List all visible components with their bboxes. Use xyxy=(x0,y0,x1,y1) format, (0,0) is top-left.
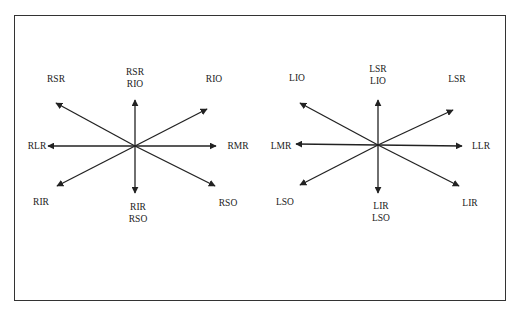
left-eye-label-down-right: LIR xyxy=(462,197,477,209)
right-eye-label-left: RLR xyxy=(28,140,46,152)
right-eye-label-up-left: RSR xyxy=(47,73,65,85)
muscle-abbreviation: LIR xyxy=(372,200,390,212)
muscle-abbreviation: RSO xyxy=(219,197,237,209)
left-eye-label-left: LMR xyxy=(271,140,292,152)
right-eye-label-up-right: RIO xyxy=(206,73,222,85)
left-eye-label-down: LIRLSO xyxy=(372,200,390,224)
muscle-abbreviation: LIO xyxy=(369,75,386,87)
muscle-abbreviation: LMR xyxy=(271,140,292,152)
left-eye-arrow-down-left xyxy=(300,145,378,185)
right-eye-label-down-left: RIR xyxy=(33,196,49,208)
muscle-abbreviation: LIO xyxy=(289,72,305,84)
muscle-abbreviation: RSR xyxy=(126,66,144,78)
muscle-abbreviation: RIO xyxy=(126,78,144,90)
arrow-diagram xyxy=(0,0,519,317)
right-eye-label-right: RMR xyxy=(227,140,248,152)
left-eye-label-up-right: LSR xyxy=(448,73,465,85)
left-eye-label-down-left: LSO xyxy=(276,196,294,208)
left-eye-label-right: LLR xyxy=(472,140,490,152)
muscle-abbreviation: RIR xyxy=(33,196,49,208)
left-eye-label-up-left: LIO xyxy=(289,72,305,84)
left-eye-arrow-up-right xyxy=(378,110,453,145)
right-eye-arrow-down-right xyxy=(135,146,215,186)
left-eye-label-up: LSRLIO xyxy=(369,63,386,87)
right-eye-label-up: RSRRIO xyxy=(126,66,144,90)
right-eye-arrow-up-right xyxy=(135,109,207,146)
muscle-abbreviation: RIR xyxy=(129,201,147,213)
muscle-abbreviation: LSR xyxy=(448,73,465,85)
muscle-abbreviation: RMR xyxy=(227,140,248,152)
left-eye-arrow-down-right xyxy=(378,145,459,186)
left-eye-arrow-right xyxy=(378,145,462,146)
left-eye-arrow-up-left xyxy=(300,103,378,145)
muscle-abbreviation: RIO xyxy=(206,73,222,85)
right-eye-label-down-right: RSO xyxy=(219,197,237,209)
muscle-abbreviation: LSO xyxy=(276,196,294,208)
muscle-abbreviation: LIR xyxy=(462,197,477,209)
muscle-abbreviation: LSO xyxy=(372,212,390,224)
left-eye-arrow-left xyxy=(296,144,378,145)
right-eye-label-down: RIRRSO xyxy=(129,201,147,225)
muscle-abbreviation: RSR xyxy=(47,73,65,85)
muscle-abbreviation: RLR xyxy=(28,140,46,152)
right-eye-arrow-down-left xyxy=(57,146,135,186)
muscle-abbreviation: LSR xyxy=(369,63,386,75)
muscle-abbreviation: LLR xyxy=(472,140,490,152)
muscle-abbreviation: RSO xyxy=(129,213,147,225)
right-eye-arrow-up-left xyxy=(56,103,135,146)
